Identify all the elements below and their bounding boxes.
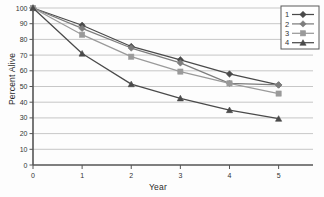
y-tick-label: 30 — [20, 114, 28, 121]
data-point-marker — [80, 32, 85, 37]
series-1 — [30, 5, 282, 88]
chart-plot-area: 012345 0102030405060708090100 1234 — [0, 0, 324, 197]
y-tick-label: 80 — [20, 36, 28, 43]
data-point-marker — [275, 82, 281, 88]
x-tick-group: 012345 — [31, 165, 281, 179]
legend-label-2[interactable]: 2 — [285, 20, 289, 29]
y-tick-label: 20 — [20, 130, 28, 137]
y-tick-label: 70 — [20, 52, 28, 59]
x-tick-label: 3 — [178, 172, 182, 179]
x-tick-label: 4 — [228, 172, 232, 179]
data-point-marker — [226, 71, 232, 77]
y-tick-label: 100 — [16, 5, 28, 12]
y-tick-label: 10 — [20, 146, 28, 153]
y-tick-group: 0102030405060708090100 — [16, 5, 33, 169]
gridlines-group — [33, 8, 313, 149]
x-tick-label: 1 — [80, 172, 84, 179]
data-point-marker — [227, 81, 232, 86]
data-point-marker — [128, 81, 134, 87]
x-axis-title: Year — [128, 182, 188, 192]
data-point-marker — [276, 91, 281, 96]
series-group — [30, 5, 282, 121]
series-line — [33, 8, 279, 85]
y-tick-label: 60 — [20, 67, 28, 74]
series-3 — [30, 5, 281, 96]
series-2 — [30, 5, 282, 88]
x-tick-label: 0 — [31, 172, 35, 179]
y-tick-label: 50 — [20, 83, 28, 90]
x-tick-label: 2 — [129, 172, 133, 179]
legend-label-4[interactable]: 4 — [285, 38, 289, 47]
y-axis-title: Percent Alive — [7, 50, 17, 108]
chart-legend: 1234 — [281, 6, 319, 49]
series-line — [33, 8, 279, 85]
survival-chart-figure: 012345 0102030405060708090100 1234 Perce… — [0, 0, 324, 197]
legend-label-3[interactable]: 3 — [285, 29, 289, 38]
data-point-marker — [129, 54, 134, 59]
data-point-marker — [178, 69, 183, 74]
data-point-marker — [300, 31, 305, 36]
legend-label-1[interactable]: 1 — [285, 10, 289, 19]
y-tick-label: 90 — [20, 20, 28, 27]
x-tick-label: 5 — [277, 172, 281, 179]
y-tick-label: 0 — [24, 162, 28, 169]
y-tick-label: 40 — [20, 99, 28, 106]
